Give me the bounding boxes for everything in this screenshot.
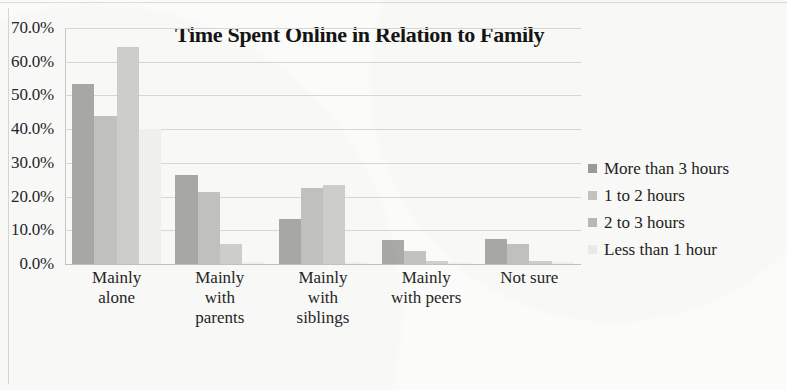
bar (175, 175, 197, 264)
legend-item[interactable]: 1 to 2 hours (588, 182, 783, 209)
page-top-edge (0, 2, 787, 3)
bar (485, 239, 507, 264)
y-axis-tick-label: 20.0% (11, 188, 54, 205)
bar (72, 84, 94, 264)
bar (507, 244, 529, 264)
bar-group (478, 28, 581, 264)
x-axis-category-label-line: Mainly (375, 268, 478, 288)
x-axis-category-label-line: alone (65, 288, 168, 308)
x-axis-category-label-line: with (271, 288, 374, 308)
y-axis-tick-label: 60.0% (11, 53, 54, 70)
x-axis-category-label-line: Mainly (65, 268, 168, 288)
y-axis-tick-label: 10.0% (11, 221, 54, 238)
x-axis-category-label-line: with (168, 288, 271, 308)
plot-area (65, 28, 581, 264)
legend-item-label: 1 to 2 hours (604, 187, 685, 204)
legend-item-label: More than 3 hours (604, 160, 729, 177)
bar (301, 188, 323, 264)
legend-item-label: 2 to 3 hours (604, 214, 685, 231)
x-axis-category-label: Not sure (478, 268, 581, 288)
x-axis-category-label-line: siblings (271, 308, 374, 328)
bar-group (375, 28, 478, 264)
bar (426, 261, 448, 264)
legend-color-swatch-icon (588, 245, 597, 254)
y-axis-tick-label: 40.0% (11, 120, 54, 137)
legend-item[interactable]: More than 3 hours (588, 155, 783, 182)
x-axis-category-label: Mainlywith peers (375, 268, 478, 308)
x-axis-category-label-line: Mainly (271, 268, 374, 288)
x-axis-category-label: Mainlyalone (65, 268, 168, 308)
x-axis-category-label: Mainlywithsiblings (271, 268, 374, 328)
bar (552, 262, 574, 264)
x-axis-category-label-line: with peers (375, 288, 478, 308)
bar (404, 251, 426, 264)
bar (448, 262, 470, 264)
chart-legend: More than 3 hours1 to 2 hours2 to 3 hour… (588, 155, 783, 263)
x-axis-category-label-line: Mainly (168, 268, 271, 288)
legend-color-swatch-icon (588, 191, 597, 200)
bar-group (271, 28, 374, 264)
y-axis-tick-labels: 70.0%60.0%50.0%40.0%30.0%20.0%10.0%0.0% (0, 0, 62, 390)
legend-color-swatch-icon (588, 164, 597, 173)
legend-color-swatch-icon (588, 218, 597, 227)
bar (242, 262, 264, 264)
bar-group (65, 28, 168, 264)
bar (139, 129, 161, 264)
bar (94, 116, 116, 264)
bar (198, 192, 220, 264)
gridline (65, 264, 581, 265)
bar-group (168, 28, 271, 264)
bar (382, 240, 404, 264)
y-axis-tick-label: 50.0% (11, 86, 54, 103)
y-axis-tick-label: 0.0% (19, 255, 54, 272)
bar (220, 244, 242, 264)
x-axis-category-labels: MainlyaloneMainlywithparentsMainlywithsi… (65, 268, 581, 348)
legend-item-label: Less than 1 hour (604, 241, 717, 258)
bar (529, 261, 551, 264)
legend-item[interactable]: 2 to 3 hours (588, 209, 783, 236)
y-axis-tick-label: 70.0% (11, 19, 54, 36)
x-axis-category-label-line: parents (168, 308, 271, 328)
bar (323, 185, 345, 264)
legend-item[interactable]: Less than 1 hour (588, 236, 783, 263)
bar (117, 47, 139, 264)
bar-groups (65, 28, 581, 264)
bar (279, 219, 301, 265)
x-axis-category-label-line: Not sure (478, 268, 581, 288)
bar (345, 262, 367, 264)
y-axis-tick-label: 30.0% (11, 154, 54, 171)
x-axis-category-label: Mainlywithparents (168, 268, 271, 328)
